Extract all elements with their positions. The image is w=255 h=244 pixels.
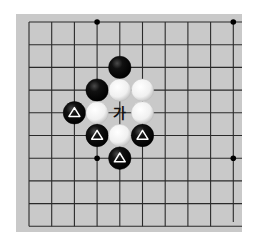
white-stone <box>109 124 131 146</box>
board-labels: 가 <box>113 105 126 121</box>
white-stone <box>131 79 153 101</box>
go-board-diagram: 가 <box>0 0 255 244</box>
star-point <box>231 19 237 25</box>
black-stone <box>86 79 108 101</box>
black-stone-triangle-marked <box>63 102 85 124</box>
go-board: 가 <box>0 0 255 244</box>
white-stone <box>109 79 131 101</box>
white-stone <box>131 102 153 124</box>
black-stone-triangle-marked <box>131 124 153 146</box>
board-background <box>16 14 242 232</box>
black-stone <box>109 56 131 78</box>
white-stone <box>86 102 108 124</box>
star-point <box>94 155 100 161</box>
black-stone-triangle-marked <box>109 147 131 169</box>
star-point <box>231 155 237 161</box>
point-label: 가 <box>113 105 126 121</box>
black-stone-triangle-marked <box>86 124 108 146</box>
board-surface <box>16 14 242 232</box>
star-point <box>94 19 100 25</box>
